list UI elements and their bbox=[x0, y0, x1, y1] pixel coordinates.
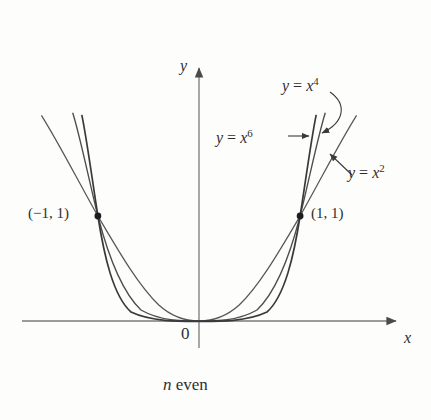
figure-caption: n even bbox=[163, 376, 208, 393]
point-marker-right bbox=[297, 213, 304, 220]
x-axis-label: x bbox=[404, 330, 411, 346]
figure-container: y = x4 y = x6 y = x2 (−1, 1) (1, 1) y x … bbox=[0, 0, 431, 420]
arrow-to-x4-curve bbox=[322, 92, 341, 133]
point-marker-left bbox=[95, 213, 102, 220]
annotation-label-y-equals-x2: y = x2 bbox=[348, 163, 385, 181]
annotation-y-x2-eq: = bbox=[355, 164, 372, 181]
annotation-y-x6-eq: = bbox=[223, 129, 240, 146]
y-axis-label: y bbox=[180, 58, 187, 74]
caption-variable: n bbox=[163, 375, 172, 394]
annotation-label-y-equals-x4: y = x4 bbox=[282, 76, 319, 94]
origin-label: 0 bbox=[181, 325, 190, 342]
annotation-y-x6-exponent: 6 bbox=[247, 127, 252, 139]
annotation-y-x4-eq: = bbox=[289, 77, 306, 94]
annotation-y-x4-exponent: 4 bbox=[313, 75, 318, 87]
caption-text: even bbox=[172, 375, 208, 394]
annotation-y-x2-exponent: 2 bbox=[379, 162, 384, 174]
point-label-one-one: (1, 1) bbox=[311, 206, 344, 221]
point-label-minus-one-one: (−1, 1) bbox=[28, 206, 69, 221]
annotation-label-y-equals-x6: y = x6 bbox=[216, 128, 253, 146]
